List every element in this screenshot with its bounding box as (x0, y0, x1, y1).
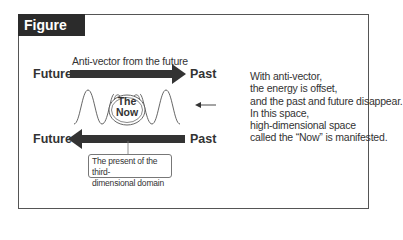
bottom-arrow (68, 129, 185, 149)
top-arrow-head (172, 64, 186, 84)
note-line: high-dimensional space (250, 119, 403, 131)
callout-line2: dimensional domain (92, 178, 168, 189)
now-label: The Now (107, 96, 147, 126)
note-pointer-arrow (195, 102, 216, 108)
note-line: and the past and future disappear. (250, 95, 403, 107)
now-label-line1: The (107, 96, 147, 107)
note-line: called the “Now” is manifested. (250, 131, 403, 143)
callout-line1: The present of the third- (92, 156, 168, 178)
callout-box: The present of the third- dimensional do… (88, 154, 172, 178)
top-past-label: Past (190, 67, 216, 81)
note-line: In this space, (250, 107, 403, 119)
note-line: With anti-vector, (250, 70, 403, 82)
bottom-past-label: Past (190, 132, 216, 146)
explanation-note: With anti-vector, the energy is offset, … (250, 70, 403, 144)
note-line: the energy is offset, (250, 82, 403, 94)
top-arrow-shaft (70, 70, 172, 78)
bottom-arrow-shaft (82, 135, 185, 143)
now-label-line2: Now (107, 107, 147, 118)
top-arrow-caption: Anti-vector from the future (72, 55, 188, 67)
bottom-future-label: Future (33, 132, 72, 146)
top-future-label: Future (33, 67, 72, 81)
top-arrow (70, 64, 186, 84)
